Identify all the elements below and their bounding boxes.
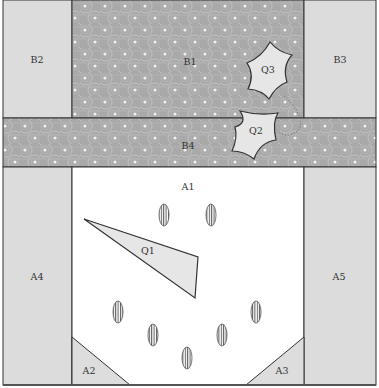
region-a3-label: A3	[275, 365, 289, 376]
piece-q2-label: Q2	[249, 125, 263, 136]
region-a1-label: A1	[181, 181, 195, 192]
region-b4-label: B4	[181, 140, 194, 151]
piece-q3-label: Q3	[261, 64, 275, 75]
ellipse-marker	[251, 301, 261, 323]
region-b3: B3	[304, 0, 376, 118]
ellipse-marker	[148, 324, 158, 346]
ellipse-marker	[217, 324, 227, 346]
region-a5: A5	[304, 167, 376, 385]
region-b4: B4	[3, 118, 376, 167]
floor-plan-diagram: B2 B1 B3 B4 A4 A1 A5 A2 A3	[0, 0, 379, 388]
region-a5-label: A5	[332, 271, 346, 282]
region-b1-label: B1	[183, 56, 196, 67]
ellipse-marker	[159, 204, 169, 226]
ellipse-marker	[206, 204, 216, 226]
region-b2-label: B2	[30, 54, 43, 65]
region-b3-label: B3	[333, 54, 346, 65]
piece-q1-label: Q1	[141, 245, 155, 256]
region-a4: A4	[3, 167, 72, 385]
region-a2-label: A2	[82, 365, 96, 376]
region-a4-label: A4	[30, 271, 44, 282]
ellipse-marker	[182, 347, 192, 369]
region-b2: B2	[3, 0, 72, 118]
ellipse-marker	[113, 301, 123, 323]
